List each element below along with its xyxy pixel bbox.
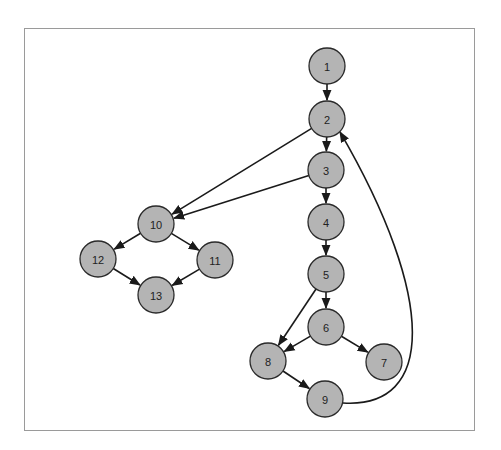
edge-3-to-10 bbox=[174, 175, 309, 218]
node-label: 2 bbox=[324, 114, 330, 126]
node-label: 10 bbox=[150, 219, 162, 231]
node-7: 7 bbox=[366, 344, 402, 380]
node-label: 13 bbox=[150, 290, 162, 302]
node-10: 10 bbox=[138, 206, 174, 242]
node-9: 9 bbox=[307, 381, 343, 417]
node-11: 11 bbox=[197, 242, 233, 278]
node-label: 6 bbox=[323, 322, 329, 334]
node-5: 5 bbox=[308, 256, 344, 292]
edge-10-to-11 bbox=[171, 233, 198, 250]
edge-12-to-13 bbox=[113, 268, 140, 284]
node-8: 8 bbox=[250, 343, 286, 379]
node-1: 1 bbox=[309, 48, 345, 84]
node-label: 8 bbox=[265, 356, 271, 368]
node-4: 4 bbox=[308, 204, 344, 240]
edge-6-to-7 bbox=[341, 336, 367, 352]
edge-2-to-10 bbox=[172, 128, 311, 214]
node-label: 7 bbox=[381, 357, 387, 369]
edge-11-to-13 bbox=[172, 269, 199, 285]
node-label: 4 bbox=[323, 217, 329, 229]
node-13: 13 bbox=[138, 277, 174, 313]
node-label: 12 bbox=[92, 254, 104, 266]
edge-6-to-8 bbox=[284, 336, 310, 351]
node-6: 6 bbox=[308, 309, 344, 345]
node-label: 5 bbox=[323, 269, 329, 281]
node-3: 3 bbox=[308, 152, 344, 188]
control-flow-graph: 12345678910111213 bbox=[0, 0, 501, 450]
edge-10-to-12 bbox=[114, 233, 140, 249]
node-2: 2 bbox=[309, 101, 345, 137]
node-label: 9 bbox=[322, 394, 328, 406]
node-label: 3 bbox=[323, 165, 329, 177]
node-label: 11 bbox=[209, 255, 220, 267]
node-label: 1 bbox=[324, 61, 330, 73]
edge-8-to-9 bbox=[283, 371, 309, 388]
nodes-layer: 12345678910111213 bbox=[80, 48, 402, 417]
node-12: 12 bbox=[80, 241, 116, 277]
